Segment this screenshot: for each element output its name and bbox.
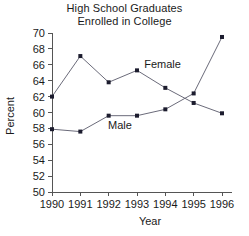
y-tick-label: 62 [33,91,45,103]
x-tick-label: 1991 [68,198,92,210]
data-point[interactable] [50,95,54,99]
data-point[interactable] [163,86,167,90]
x-axis: 1990199119921993199419951996 [40,192,234,210]
data-point[interactable] [135,114,139,118]
data-point[interactable] [107,114,111,118]
y-tick-label: 50 [33,186,45,198]
data-point[interactable] [220,111,224,115]
y-tick-label: 58 [33,122,45,134]
y-tick-label: 56 [33,138,45,150]
x-tick-label: 1992 [96,198,120,210]
series-male [50,35,224,134]
series-label-female: Female [144,58,181,70]
y-tick-label: 54 [33,154,45,166]
line-chart-plot: 5052545658606264666870 19901991199219931… [0,0,249,236]
y-tick-label: 60 [33,107,45,119]
y-tick-label: 68 [33,43,45,55]
data-point[interactable] [220,35,224,39]
x-tick-label: 1995 [181,198,205,210]
x-tick-label: 1994 [153,198,177,210]
chart-container: High School Graduates Enrolled in Colleg… [0,0,249,236]
y-tick-label: 70 [33,27,45,39]
data-point[interactable] [192,101,196,105]
data-point[interactable] [107,80,111,84]
y-tick-label: 66 [33,59,45,71]
x-axis-title: Year [139,215,162,227]
y-axis-title: Percent [4,97,16,135]
y-tick-label: 64 [33,75,45,87]
series-annotations: FemaleMale [108,58,181,131]
x-tick-label: 1996 [210,198,234,210]
x-tick-label: 1990 [40,198,64,210]
data-point[interactable] [163,107,167,111]
series-label-male: Male [108,119,132,131]
data-point[interactable] [135,68,139,72]
y-axis: 5052545658606264666870 [33,27,52,198]
series-line-female [52,56,222,113]
data-point[interactable] [192,91,196,95]
x-tick-label: 1993 [125,198,149,210]
data-point[interactable] [78,54,82,58]
data-point[interactable] [78,130,82,134]
data-point[interactable] [50,127,54,131]
y-tick-label: 52 [33,170,45,182]
data-series-group [50,35,224,134]
